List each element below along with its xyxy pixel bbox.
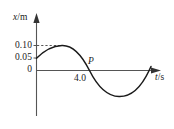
y-tick-label-zero: 0 [1,65,32,75]
y-axis-unit: /m [17,12,27,22]
y-tick-label-005: 0.05 [1,53,32,63]
x-axis-label: t/s [155,73,164,83]
point-p-label: P [88,57,94,67]
x-tick-label-40: 4.0 [74,74,86,84]
x-axis-unit: /s [158,72,165,82]
y-axis-label: x/m [13,13,28,23]
y-tick-label-010: 0.10 [1,41,32,51]
physics-wave-figure: x/m t/s 0.10 0.05 0 4.0 P [0,0,174,129]
y-axis-arrow-icon [33,13,39,23]
